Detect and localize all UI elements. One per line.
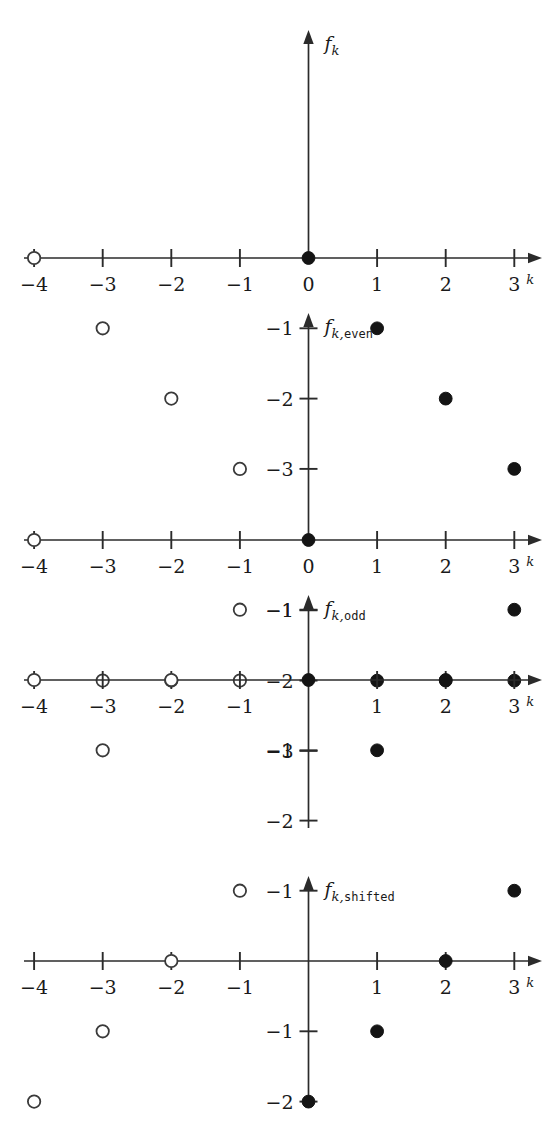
x-axis-tick-label: −1 <box>226 976 254 998</box>
data-point-open <box>97 1025 109 1037</box>
y-axis-title: fk,shifted <box>323 878 395 904</box>
plot-canvas-4: −4−3−2−1123k−1−1−2fk,shifted <box>0 0 558 1137</box>
x-axis-tick-label: 2 <box>440 976 452 998</box>
y-axis-tick-label: −1 <box>265 880 293 902</box>
y-axis-arrow-icon <box>303 876 313 890</box>
x-axis-tick-label: 1 <box>371 976 383 998</box>
x-axis-tick-label: 3 <box>508 976 520 998</box>
data-point-open <box>234 885 246 897</box>
figure-sequence-symmetry-plots: −4−3−2−10123k−1−2−3fk−4−3−2−10123k−1−2−3… <box>0 0 558 1137</box>
data-point-filled <box>439 955 452 968</box>
data-point-filled <box>302 1095 315 1108</box>
y-axis-tick-label: −1 <box>265 1020 293 1042</box>
x-axis-title: k <box>526 975 534 990</box>
x-axis-tick-label: −2 <box>157 976 185 998</box>
data-point-filled <box>508 884 521 897</box>
data-point-open <box>28 1095 40 1107</box>
x-axis-tick-label: −3 <box>89 976 117 998</box>
data-point-filled <box>371 1025 384 1038</box>
y-axis-tick-label: −2 <box>265 1091 293 1113</box>
x-axis-tick-label: −4 <box>20 976 48 998</box>
data-point-open <box>165 955 177 967</box>
x-axis-arrow-icon <box>528 956 542 966</box>
